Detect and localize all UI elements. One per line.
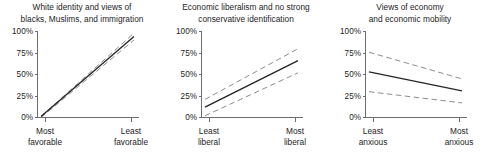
ytick-label-50: 50%: [181, 70, 197, 79]
ytick-label-50: 50%: [17, 70, 33, 79]
plot-area: 100% 75% 50% 25% 0% Least liberal Most l…: [164, 0, 328, 154]
xtick-label-right-line-1: Most: [450, 126, 469, 136]
ytick-label-100: 100%: [12, 27, 33, 36]
ytick-label-25: 25%: [345, 92, 361, 101]
xtick-label-right-line-2: favorable: [114, 137, 149, 147]
ytick-label-50: 50%: [345, 70, 361, 79]
lower-confidence-line: [369, 92, 462, 103]
lower-confidence-line: [205, 73, 298, 116]
xtick-label-left-line-2: favorable: [28, 137, 63, 147]
panel-views-of-economy: Views of economy and economic mobility 1…: [328, 0, 492, 154]
multi-panel-chart: White identity and views of blacks, Musl…: [0, 0, 492, 154]
xtick-label-right-line-1: Least: [121, 126, 142, 136]
ytick-label-0: 0%: [185, 113, 197, 122]
predicted-line: [205, 61, 298, 107]
ytick-label-100: 100%: [340, 27, 361, 36]
predicted-line: [41, 37, 134, 117]
panel-white-identity: White identity and views of blacks, Musl…: [0, 0, 164, 154]
ytick-label-25: 25%: [17, 92, 33, 101]
lower-confidence-line: [41, 40, 134, 118]
ytick-label-75: 75%: [181, 49, 197, 58]
plot-area: 100% 75% 50% 25% 0% Least anxious Most a…: [328, 0, 492, 154]
ytick-label-75: 75%: [17, 49, 33, 58]
xtick-label-left-line-1: Least: [199, 126, 220, 136]
plot-area: 100% 75% 50% 25% 0% Most favorable: [0, 0, 164, 154]
xtick-label-left-line-2: liberal: [198, 137, 220, 147]
upper-confidence-line: [205, 49, 298, 100]
xtick-label-right-line-2: anxious: [445, 137, 474, 147]
xtick-label-left-line-1: Most: [36, 126, 55, 136]
ytick-label-25: 25%: [181, 92, 197, 101]
ytick-label-0: 0%: [21, 113, 33, 122]
xtick-label-left-line-2: anxious: [359, 137, 388, 147]
ytick-label-75: 75%: [345, 49, 361, 58]
xtick-label-left-line-1: Least: [363, 126, 384, 136]
ytick-label-100: 100%: [176, 27, 197, 36]
xtick-label-right-line-1: Most: [286, 126, 305, 136]
xtick-label-right-line-2: liberal: [284, 137, 306, 147]
ytick-label-0: 0%: [349, 113, 361, 122]
panel-economic-liberalism: Economic liberalism and no strong conser…: [164, 0, 328, 154]
